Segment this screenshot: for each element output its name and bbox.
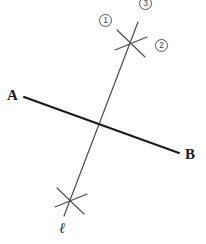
- line-l-stroke: [64, 22, 138, 216]
- tick-mark-upper-icon: [115, 30, 147, 57]
- point-label-b: B: [185, 147, 195, 162]
- circled-number-1: 1: [99, 14, 112, 27]
- line-label-l: ℓ: [59, 221, 65, 236]
- geometry-figure: A B ℓ 1 2 3: [0, 0, 206, 244]
- circled-number-2: 2: [155, 39, 168, 52]
- figure-canvas: [0, 0, 206, 244]
- segment-ab-stroke: [24, 97, 179, 153]
- point-label-a: A: [7, 88, 18, 103]
- tick-mark-lower-icon: [55, 188, 87, 214]
